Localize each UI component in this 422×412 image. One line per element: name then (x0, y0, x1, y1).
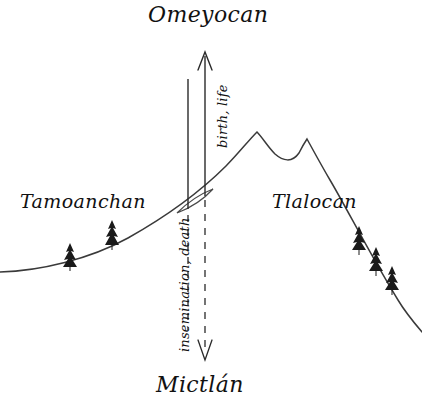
region-label-tlalocan: Tlalocan (272, 190, 357, 212)
cosmological-diagram: Omeyocan Mictlán Tamoanchan Tlalocan bir… (0, 0, 422, 412)
tier-label-mictlan: Mictlán (156, 372, 244, 397)
region-label-tamoanchan: Tamoanchan (20, 190, 146, 212)
tier-label-omeyocan: Omeyocan (148, 2, 268, 27)
axis-label-insemination-death: insemination, death (177, 217, 192, 352)
conifer-tree (63, 243, 77, 271)
tree-group-left (63, 220, 119, 271)
axis-label-birth-life: birth, life (215, 84, 230, 148)
tree-group-right (352, 226, 399, 295)
conifer-tree (105, 220, 119, 250)
